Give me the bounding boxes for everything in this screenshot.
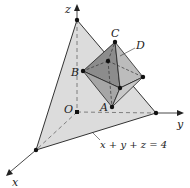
y-arrow-icon xyxy=(177,110,184,116)
vertex-label-D: D xyxy=(135,39,145,52)
z-intercept-point xyxy=(75,18,79,22)
y-axis-label: y xyxy=(176,118,184,131)
vertex-C xyxy=(113,40,117,44)
z-arrow-icon xyxy=(74,4,80,11)
octahedron-plane-diagram: z y x O A B C D x + y + z = 4 xyxy=(0,0,190,188)
plane-equation-label: x + y + z = 4 xyxy=(100,139,167,150)
equation-leader-line xyxy=(92,132,100,140)
x-axis xyxy=(10,150,36,172)
vertex-label-B: B xyxy=(70,66,79,79)
vertex-label-C: C xyxy=(111,27,120,40)
origin-point xyxy=(75,110,79,114)
vertex-right xyxy=(141,75,145,79)
z-axis-label: z xyxy=(64,3,71,16)
vertex-front xyxy=(118,86,122,90)
x-intercept-point xyxy=(34,148,38,152)
y-intercept-point xyxy=(154,111,158,115)
vertex-A xyxy=(110,105,114,109)
vertex-B xyxy=(81,69,85,73)
vertex-label-A: A xyxy=(99,101,108,114)
origin-label: O xyxy=(64,103,73,116)
x-axis-label: x xyxy=(12,176,19,188)
vertex-D xyxy=(106,59,110,63)
